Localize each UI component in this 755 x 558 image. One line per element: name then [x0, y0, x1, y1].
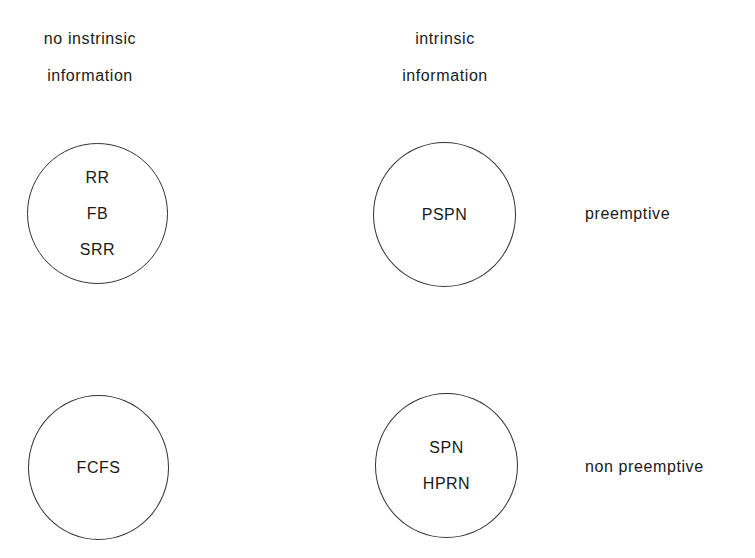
column-header-line1: intrinsic — [375, 20, 515, 57]
algorithm-fb: FB — [87, 196, 108, 232]
circle-info-preemptive: PSPN — [373, 142, 516, 287]
row-label-non-preemptive: non preemptive — [585, 458, 704, 476]
algorithm-hprn: HPRN — [423, 466, 470, 502]
column-header-no-intrinsic-info: no instrinsic information — [10, 20, 170, 94]
column-header-line1: no instrinsic — [10, 20, 170, 57]
circle-info-nonpreemptive: SPN HPRN — [375, 393, 518, 538]
algorithm-srr: SRR — [80, 232, 115, 268]
column-header-line2: information — [375, 57, 515, 94]
algorithm-pspn: PSPN — [422, 197, 468, 233]
row-label-preemptive: preemptive — [585, 205, 670, 223]
circle-no-info-preemptive: RR FB SRR — [27, 143, 168, 284]
algorithm-rr: RR — [85, 160, 109, 196]
circle-no-info-nonpreemptive: FCFS — [28, 395, 169, 540]
column-header-line2: information — [10, 57, 170, 94]
algorithm-fcfs: FCFS — [77, 450, 121, 486]
column-header-intrinsic-info: intrinsic information — [375, 20, 515, 94]
algorithm-spn: SPN — [429, 430, 463, 466]
